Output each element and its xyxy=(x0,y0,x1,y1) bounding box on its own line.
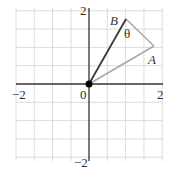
origin-dot xyxy=(86,81,93,88)
coordinate-plane: 2 −2 −2 2 0 B A θ xyxy=(0,0,173,173)
theta-label: θ xyxy=(124,26,130,41)
y-max-label: 2 xyxy=(80,3,87,18)
x-max-label: 2 xyxy=(157,87,164,102)
y-min-label: −2 xyxy=(74,155,88,170)
point-b-label: B xyxy=(110,13,118,28)
x-min-label: −2 xyxy=(12,87,26,102)
point-a-label: A xyxy=(147,52,156,67)
origin-label: 0 xyxy=(80,87,87,102)
